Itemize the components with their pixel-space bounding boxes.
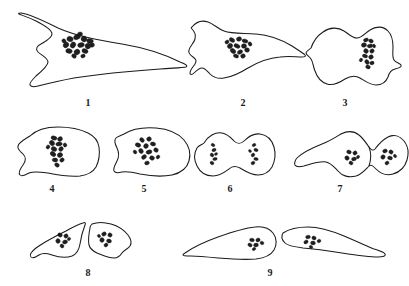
panel-label-9: 9 — [268, 268, 273, 278]
cell-outline-4 — [18, 127, 100, 176]
cell-outline-9b — [282, 227, 385, 257]
panel-label-3: 3 — [343, 98, 348, 108]
panel-label-1: 1 — [86, 98, 91, 108]
panel-label-2: 2 — [241, 98, 246, 108]
cell-panel-4 — [18, 127, 100, 176]
cell-outline-1 — [19, 13, 187, 87]
cell-panel-6 — [195, 133, 275, 176]
cell-division-furrow-7 — [369, 147, 371, 166]
cell-outline-7 — [295, 132, 408, 177]
figure-drawing-canvas — [0, 0, 409, 286]
mitosis-figure-plate: 1 2 3 4 5 6 7 8 9 — [0, 0, 409, 286]
cell-outline-3 — [306, 27, 401, 85]
cell-panel-9 — [183, 227, 385, 260]
panel-label-7: 7 — [338, 184, 343, 194]
panel-label-6: 6 — [228, 184, 233, 194]
panel-label-8: 8 — [86, 268, 91, 278]
cell-panel-2 — [189, 21, 306, 78]
panel-label-5: 5 — [142, 184, 147, 194]
cell-outline-6 — [195, 133, 275, 176]
panel-label-4: 4 — [50, 184, 55, 194]
cell-panel-3 — [306, 27, 401, 85]
cell-panel-1 — [19, 13, 187, 87]
cell-panel-8 — [30, 223, 131, 259]
cell-panel-7 — [295, 132, 408, 177]
cell-panel-5 — [114, 128, 190, 176]
